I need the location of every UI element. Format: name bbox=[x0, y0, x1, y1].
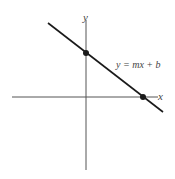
y-axis-label: y bbox=[82, 11, 88, 23]
equation-label: y = mx + b bbox=[115, 59, 161, 70]
x-axis-label: x bbox=[157, 90, 163, 102]
linear-graph-diagram: y x y = mx + b bbox=[0, 0, 175, 179]
x-intercept-dot bbox=[140, 94, 146, 100]
y-intercept-dot bbox=[83, 50, 89, 56]
